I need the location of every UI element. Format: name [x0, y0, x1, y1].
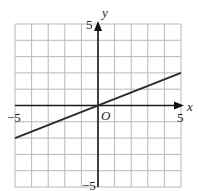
y-axis-label: y: [100, 5, 108, 20]
coordinate-plane: x y O −5 5 −5 5: [0, 0, 199, 191]
x-tick-label-max: 5: [177, 110, 184, 125]
y-tick-label-max: 5: [86, 17, 93, 32]
origin-label: O: [101, 108, 111, 123]
y-tick-label-min: −5: [82, 178, 96, 191]
x-axis-arrow-icon: [174, 102, 184, 110]
y-axis-arrow-icon: [94, 21, 102, 31]
x-tick-label-min: −5: [7, 110, 21, 125]
x-axis-label: x: [186, 99, 193, 114]
